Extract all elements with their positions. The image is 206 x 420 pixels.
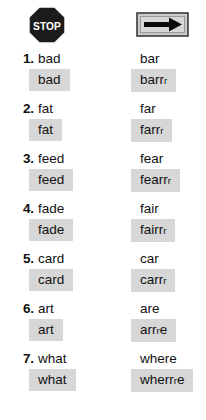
right-word-highlight: fairrr — [131, 219, 175, 242]
left-word-highlight: fade — [29, 219, 73, 241]
right-word-plain: are — [140, 300, 160, 318]
item-plain-row: 2. fat far — [0, 98, 206, 120]
item-highlight-row: bad barrr — [0, 69, 206, 91]
item-number: 3. — [12, 150, 34, 168]
stop-sign-icon: STOP — [29, 7, 65, 43]
right-word-highlight: arrre — [131, 319, 176, 342]
right-word-small-letter: r — [163, 275, 166, 286]
right-word-highlight: carrr — [131, 269, 175, 292]
right-word-tail: e — [160, 322, 168, 337]
item-plain-row: 3. feed fear — [0, 148, 206, 170]
right-word-plain: fear — [140, 150, 163, 168]
left-word-plain: art — [38, 300, 54, 318]
right-word-main: fairr — [140, 222, 163, 237]
right-word-main: carr — [140, 272, 163, 287]
right-word-small-letter: r — [160, 125, 163, 136]
worksheet-page: STOP 1. bad bar bad barrr — [0, 0, 206, 420]
list-item: 1. bad bar bad barrr — [0, 48, 206, 98]
right-arrow-sign-icon — [136, 12, 189, 37]
right-word-highlight: fearrr — [131, 169, 180, 192]
left-word-highlight: bad — [29, 69, 70, 91]
right-word-highlight: barrr — [131, 69, 176, 92]
item-number: 4. — [12, 200, 34, 218]
left-word-plain: fat — [38, 100, 53, 118]
list-item: 2. fat far fat farrr — [0, 98, 206, 148]
item-plain-row: 5. card car — [0, 248, 206, 270]
item-highlight-row: card carrr — [0, 269, 206, 291]
right-word-highlight: wherrre — [131, 369, 193, 392]
right-word-plain: car — [140, 250, 159, 268]
list-item: 3. feed fear feed fearrr — [0, 148, 206, 198]
right-word-highlight: farrr — [131, 119, 172, 142]
right-word-main: farr — [140, 122, 160, 137]
left-word-plain: bad — [38, 50, 61, 68]
right-word-small-letter: r — [168, 175, 171, 186]
item-number: 1. — [12, 50, 34, 68]
list-item: 6. art are art arrre — [0, 298, 206, 348]
right-word-plain: bar — [140, 50, 160, 68]
item-plain-row: 7. what where — [0, 348, 206, 370]
right-word-plain: far — [140, 100, 156, 118]
right-word-tail: e — [177, 372, 185, 387]
list-item: 7. what where what wherrre — [0, 348, 206, 398]
item-number: 7. — [12, 350, 34, 368]
right-word-small-letter: r — [163, 225, 166, 236]
right-word-plain: where — [140, 350, 177, 368]
right-word-main: wherr — [140, 372, 174, 387]
item-plain-row: 6. art are — [0, 298, 206, 320]
item-highlight-row: art arrre — [0, 319, 206, 341]
item-plain-row: 4. fade fair — [0, 198, 206, 220]
item-number: 2. — [12, 100, 34, 118]
word-pair-list: 1. bad bar bad barrr 2. fat far fat farr… — [0, 48, 206, 398]
list-item: 5. card car card carrr — [0, 248, 206, 298]
header-icon-row: STOP — [0, 0, 206, 48]
left-word-highlight: what — [29, 369, 76, 391]
item-highlight-row: feed fearrr — [0, 169, 206, 191]
right-word-small-letter: r — [164, 75, 167, 86]
left-word-plain: feed — [38, 150, 64, 168]
left-word-plain: fade — [38, 200, 64, 218]
svg-text:STOP: STOP — [33, 21, 61, 32]
left-word-highlight: feed — [29, 169, 73, 191]
item-highlight-row: fade fairrr — [0, 219, 206, 241]
right-word-main: barr — [140, 72, 164, 87]
right-word-plain: fair — [140, 200, 159, 218]
left-word-highlight: card — [29, 269, 73, 291]
left-word-plain: card — [38, 250, 64, 268]
list-item: 4. fade fair fade fairrr — [0, 198, 206, 248]
left-word-highlight: fat — [29, 119, 62, 141]
item-highlight-row: what wherrre — [0, 369, 206, 391]
right-word-main: arr — [140, 322, 157, 337]
right-word-main: fearr — [140, 172, 168, 187]
left-word-plain: what — [38, 350, 67, 368]
item-plain-row: 1. bad bar — [0, 48, 206, 70]
left-word-highlight: art — [29, 319, 63, 341]
item-number: 6. — [12, 300, 34, 318]
item-number: 5. — [12, 250, 34, 268]
item-highlight-row: fat farrr — [0, 119, 206, 141]
